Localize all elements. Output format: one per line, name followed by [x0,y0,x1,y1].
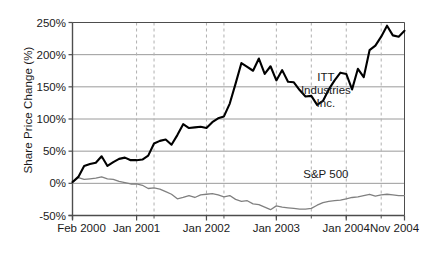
y-tick-label: 200% [20,49,66,61]
x-axis-tick-labels: Feb 2000Jan 2001Jan 2002Jan 2003Jan 2004… [0,222,441,242]
x-tick-label: Jan 2002 [183,222,230,234]
y-tick-label: -50% [20,210,66,222]
series-line-sp500 [73,177,405,210]
x-tick-label: Feb 2000 [57,222,106,234]
y-tick-label: 250% [20,17,66,29]
series-line-itt [73,26,405,182]
y-axis-tick-labels: -50%0%50%100%150%200%250% [18,0,66,260]
x-tick-label: Nov 2004 [370,222,419,234]
y-tick-label: 0% [20,177,66,189]
x-tick-label: Jan 2004 [323,222,370,234]
y-tick-label: 50% [20,145,66,157]
y-tick-label: 100% [20,113,66,125]
annotation-line: Industries [301,84,351,97]
x-tick-label: Jan 2003 [253,222,300,234]
y-tick-label: 150% [20,81,66,93]
itt-label: ITTIndustriesInc. [301,71,351,109]
x-tick-label: Jan 2001 [113,222,160,234]
annotation-line: Inc. [301,97,351,110]
annotation-line: S&P 500 [303,168,348,181]
share-price-change-chart: Share Price Change (%) -50%0%50%100%150%… [0,0,441,260]
plot-area [0,0,441,260]
sp500-label: S&P 500 [303,168,348,181]
annotation-line: ITT [301,71,351,84]
